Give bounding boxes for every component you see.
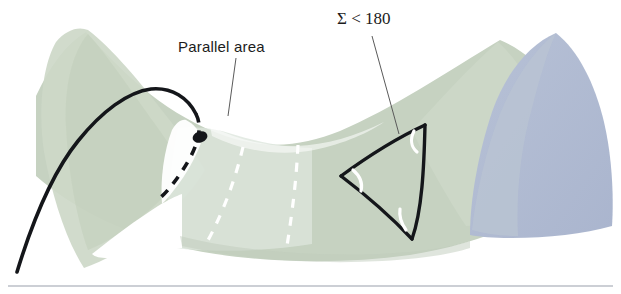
surface-group <box>36 29 613 269</box>
parallel-area-label: Parallel area <box>178 38 265 55</box>
figure-canvas: Parallel area Σ < 180 <box>0 0 621 294</box>
parallel-area-leader <box>228 58 236 116</box>
angle-sum-label: Σ < 180 <box>337 9 390 28</box>
hyperbolic-surface-figure: Parallel area Σ < 180 <box>0 0 621 294</box>
